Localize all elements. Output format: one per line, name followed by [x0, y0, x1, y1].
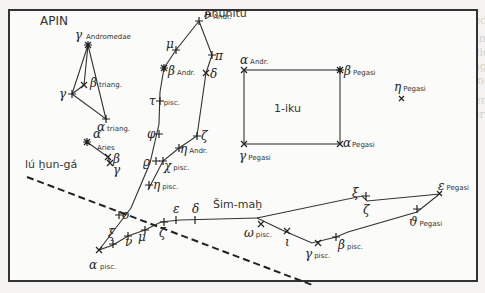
star-label: γPegasi — [239, 149, 271, 163]
star-marker — [152, 157, 160, 165]
star-label: αAndr. — [240, 53, 268, 67]
star-label: δ — [210, 67, 217, 81]
star-label: βtriang. — [89, 76, 122, 90]
star-marker — [413, 205, 421, 213]
star-marker — [258, 221, 264, 227]
star-label: χpisc. — [163, 159, 189, 173]
star-label: ϑPegasi — [409, 215, 442, 229]
star-label: βpisc. — [337, 238, 363, 252]
star-label: ξ — [352, 186, 360, 200]
star-label: ν — [125, 235, 132, 249]
iku-label: 1-iku — [274, 102, 301, 115]
star-label: φ — [147, 127, 156, 141]
star-label: μ — [166, 37, 174, 51]
star-marker — [96, 247, 102, 253]
star-label: μ — [138, 230, 146, 244]
star-marker — [160, 64, 168, 72]
star-marker — [362, 192, 370, 200]
star-label: βAndr. — [167, 64, 195, 78]
star-marker — [193, 132, 201, 140]
star-label: εPegasi — [438, 179, 469, 193]
star-marker — [84, 41, 92, 49]
star-label: ζ — [201, 129, 209, 143]
star-label: ι — [285, 235, 290, 249]
star-label: ε — [173, 202, 179, 216]
star-label: βPegasi — [343, 64, 376, 78]
star-label: ζ — [159, 226, 167, 240]
star-label: ωpisc. — [244, 226, 272, 240]
star-label: ζ — [363, 203, 371, 217]
star-label: ϱ — [143, 155, 150, 169]
star-labels: γ Andromedae βtriang. γ αtriang. α Aries… — [59, 8, 469, 272]
simmah-label: Šim-maḫ — [213, 198, 262, 211]
star-label: γ — [113, 163, 121, 177]
star-label: αpisc. — [89, 258, 116, 272]
star-marker — [160, 218, 168, 226]
star-label: π — [214, 49, 224, 63]
star-marker — [399, 96, 404, 101]
anunitu-left — [131, 21, 199, 208]
star-label: ηAndr. — [180, 142, 207, 156]
star-label: Aries — [97, 144, 115, 152]
star-label: δ — [192, 202, 199, 216]
star-label: α — [93, 127, 101, 141]
star-label: ο — [122, 208, 129, 222]
star-marker — [68, 90, 76, 98]
star-label: ηPegasi — [394, 80, 426, 94]
star-label: γpisc. — [305, 247, 330, 261]
star-label: τpisc. — [149, 94, 180, 108]
star-marker — [315, 240, 321, 246]
hunga-label: lú ḫun-gá — [25, 158, 77, 171]
star-marker — [109, 240, 117, 248]
star-map: APIN Anunītu 1-iku Šim-maḫ lú ḫun-gá γ A… — [0, 0, 485, 293]
star-label: ηpisc. — [153, 178, 178, 192]
apin-title: APIN — [40, 14, 68, 28]
star-marker — [336, 66, 344, 74]
star-label: αtriang. — [97, 120, 130, 134]
star-label: γ Andromedae — [75, 28, 131, 42]
star-label: αPegasi — [343, 136, 375, 150]
star-marker — [83, 138, 91, 146]
star-marker — [105, 154, 111, 160]
star-label: γ — [59, 87, 67, 101]
